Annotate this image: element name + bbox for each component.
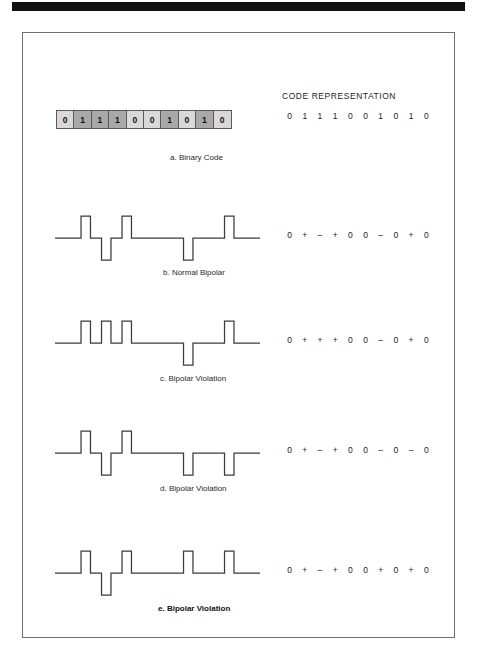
waveform-path: [55, 551, 260, 595]
code-row-c: 0+++00–0+0: [282, 335, 434, 345]
code-symbol: 0: [358, 565, 373, 575]
code-row-e: 0+–+00+0+0: [282, 565, 434, 575]
top-black-rule: [12, 2, 465, 11]
code-symbol: –: [373, 230, 388, 240]
waveform-d: [55, 423, 264, 483]
code-symbol: –: [404, 445, 419, 455]
bit-cell: 1: [109, 111, 126, 128]
code-symbol: +: [297, 335, 312, 345]
code-symbol: 0: [388, 565, 403, 575]
waveform-e: [55, 543, 264, 603]
waveform-svg: [55, 423, 264, 483]
code-representation-heading: CODE REPRESENTATION: [282, 91, 396, 101]
code-representation-row-a: 0111001010: [282, 111, 434, 121]
caption-e: e. Bipolar Violation: [158, 604, 230, 613]
code-symbol: 0: [358, 335, 373, 345]
code-symbol: 0: [419, 111, 434, 121]
bit-cell: 1: [161, 111, 178, 128]
code-symbol: 0: [419, 335, 434, 345]
code-symbol: 0: [343, 565, 358, 575]
waveform-path: [55, 431, 260, 475]
code-symbol: +: [328, 230, 343, 240]
code-symbol: 1: [297, 111, 312, 121]
code-symbol: 0: [388, 335, 403, 345]
waveform-path: [55, 321, 260, 365]
code-symbol: 0: [282, 335, 297, 345]
code-symbol: 0: [358, 445, 373, 455]
code-symbol: 1: [373, 111, 388, 121]
code-symbol: 0: [343, 335, 358, 345]
waveform-c: [55, 313, 264, 373]
code-symbol: +: [404, 335, 419, 345]
code-row-b: 0+–+00–0+0: [282, 230, 434, 240]
code-symbol: 1: [328, 111, 343, 121]
code-symbol: 0: [419, 230, 434, 240]
code-symbol: 0: [388, 445, 403, 455]
code-symbol: 0: [343, 445, 358, 455]
code-symbol: –: [373, 445, 388, 455]
waveform-path: [55, 216, 260, 260]
code-symbol: 0: [358, 111, 373, 121]
code-symbol: 0: [282, 111, 297, 121]
code-symbol: +: [297, 565, 312, 575]
bit-cell: 0: [214, 111, 231, 128]
code-symbol: 0: [282, 565, 297, 575]
code-symbol: 0: [343, 230, 358, 240]
bit-cell: 0: [127, 111, 144, 128]
code-symbol: +: [328, 445, 343, 455]
code-symbol: 0: [358, 230, 373, 240]
code-symbol: +: [328, 335, 343, 345]
bit-cell: 0: [144, 111, 161, 128]
waveform-svg: [55, 313, 264, 373]
code-symbol: +: [312, 335, 327, 345]
code-symbol: +: [404, 565, 419, 575]
code-symbol: 0: [282, 445, 297, 455]
caption-d: d. Bipolar Violation: [160, 484, 227, 493]
caption-c: c. Bipolar Violation: [160, 374, 226, 383]
bit-cell: 1: [74, 111, 91, 128]
code-symbol: 1: [404, 111, 419, 121]
code-symbol: –: [373, 335, 388, 345]
code-symbol: 0: [419, 565, 434, 575]
code-symbol: 0: [343, 111, 358, 121]
binary-code-strip: 0111001010: [56, 110, 232, 129]
code-symbol: 0: [419, 445, 434, 455]
code-symbol: –: [312, 445, 327, 455]
code-symbol: 0: [282, 230, 297, 240]
code-symbol: 1: [312, 111, 327, 121]
code-symbol: +: [297, 445, 312, 455]
bit-cell: 0: [179, 111, 196, 128]
bit-cell: 1: [196, 111, 213, 128]
code-symbol: +: [404, 230, 419, 240]
bit-cell: 1: [92, 111, 109, 128]
waveform-b: [55, 208, 264, 268]
code-symbol: 0: [388, 111, 403, 121]
code-symbol: 0: [388, 230, 403, 240]
code-symbol: +: [297, 230, 312, 240]
code-symbol: –: [312, 230, 327, 240]
code-symbol: +: [328, 565, 343, 575]
waveform-svg: [55, 543, 264, 603]
caption-a: a. Binary Code: [170, 153, 223, 162]
code-row-d: 0+–+00–0–0: [282, 445, 434, 455]
code-symbol: –: [312, 565, 327, 575]
code-symbol: +: [373, 565, 388, 575]
waveform-svg: [55, 208, 264, 268]
caption-b: b. Normal Bipolar: [163, 268, 225, 277]
bit-cell: 0: [57, 111, 74, 128]
